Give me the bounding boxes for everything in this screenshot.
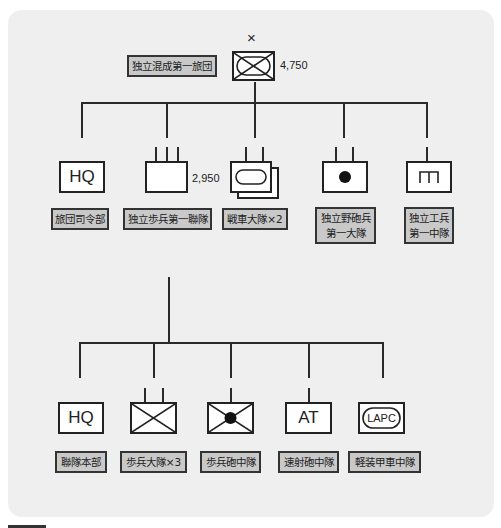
at-company-symbol: AT	[285, 402, 332, 434]
lapc-text: LAPC	[360, 404, 403, 432]
field-artillery-label: 独立野砲兵 第一大隊	[315, 207, 376, 244]
brigade-label: 独立混成第一旅団	[127, 55, 217, 77]
company-tick	[426, 147, 428, 161]
battalion-tick	[162, 388, 164, 402]
infantry-battalion-label: 歩兵大隊×3	[120, 451, 187, 473]
infantry-gun-symbol	[207, 402, 254, 434]
battalion-tick	[352, 147, 354, 161]
connector-v-engineer	[426, 102, 428, 138]
regiment-strength: 2,950	[192, 172, 220, 184]
armor-oval-icon	[232, 163, 270, 191]
at-icon: AT	[287, 404, 330, 432]
infantry-regiment-symbol	[145, 161, 188, 193]
infantry-gun-icon	[209, 404, 252, 432]
connector-v-infantry	[166, 102, 168, 138]
company-tick	[308, 388, 310, 402]
field-artillery-symbol	[322, 161, 368, 193]
brigade-symbol	[232, 51, 275, 81]
connector-v-inf-battalions	[153, 342, 155, 378]
connector-v-artillery	[343, 102, 345, 138]
regiment-hq-label: 聯隊本部	[55, 451, 107, 473]
hq-icon: HQ	[61, 163, 103, 191]
at-company-label: 速射砲中隊	[278, 451, 339, 473]
regiment-tick	[155, 147, 157, 161]
regiment-tick	[177, 147, 179, 161]
brigade-strength: 4,750	[280, 59, 308, 71]
company-tick	[230, 388, 232, 402]
tank-battalion-label: 戦車大隊×2	[222, 208, 288, 230]
engineer-label-line1: 独立工兵	[409, 211, 449, 226]
brigade-hq-symbol: HQ	[59, 161, 105, 193]
connector-regiment-stem	[168, 277, 170, 344]
lapc-company-label: 軽装甲車中隊	[348, 451, 421, 473]
field-artillery-label-line2: 第一大隊	[326, 226, 366, 241]
connector-v-hq	[81, 102, 83, 138]
infantry-x-icon	[132, 404, 175, 432]
infantry-battalion-symbol	[130, 402, 177, 434]
regiment-hq-symbol: HQ	[58, 402, 104, 434]
battalion-tick	[245, 147, 247, 161]
engineer-symbol	[406, 161, 452, 193]
connector-brigade-stem	[254, 82, 256, 103]
diagram-panel	[8, 10, 494, 517]
connector-v-tank	[254, 102, 256, 138]
field-artillery-label-line1: 独立野砲兵	[321, 211, 371, 226]
infantry-regiment-label: 独立歩兵第一聯隊	[123, 208, 212, 230]
engineer-bracket-icon	[408, 163, 450, 191]
regiment-tick	[166, 147, 168, 161]
connector-v-at	[308, 342, 310, 378]
infantry-gun-label: 歩兵砲中隊	[200, 451, 261, 473]
tank-battalion-symbol	[230, 161, 272, 193]
armored-infantry-icon	[234, 53, 273, 79]
connector-v-inf-gun	[230, 342, 232, 378]
brigade-hq-label: 旅団司令部	[51, 208, 109, 230]
engineer-label-line2: 第一中隊	[409, 226, 449, 241]
echelon-mark: ×	[247, 29, 256, 46]
lapc-company-symbol: LAPC	[358, 402, 405, 434]
battalion-tick	[335, 147, 337, 161]
battalion-tick	[262, 147, 264, 161]
battalion-tick	[144, 388, 146, 402]
engineer-label: 独立工兵 第一中隊	[404, 207, 454, 244]
connector-v-lapc	[382, 342, 384, 378]
artillery-dot-icon	[324, 163, 366, 191]
hq-icon: HQ	[60, 404, 102, 432]
connector-v-regiment-hq	[79, 342, 81, 378]
